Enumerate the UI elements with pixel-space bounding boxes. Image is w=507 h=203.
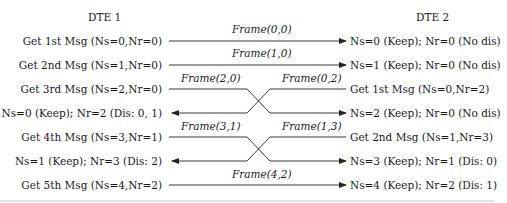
- arrow-frame-1-3: [172, 137, 346, 161]
- arrow-frame-2-0: [169, 89, 346, 113]
- frame-arrows: [0, 0, 507, 203]
- arrow-frame-3-1: [169, 137, 346, 161]
- arrow-frame-0-2: [172, 89, 346, 113]
